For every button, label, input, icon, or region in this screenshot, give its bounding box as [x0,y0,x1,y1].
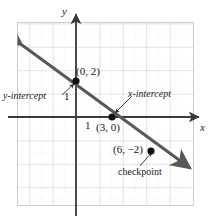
grid-lines [18,23,194,206]
point-checkpoint [147,147,154,154]
y-intercept-annotation: y-intercept [3,91,46,101]
point-label-6-minus2: (6, −2) [113,144,143,155]
point-label-0-2: (0, 2) [76,66,100,77]
y-unit-tick-label: 1 [64,91,70,102]
graph-canvas [0,0,211,224]
y-axis-label: y [62,6,67,17]
line-graph-figure: y x 1 1 (0, 2) (3, 0) (6, −2) y-intercep… [0,0,211,224]
point-label-3-0: (3, 0) [96,122,120,133]
x-intercept-annotation: x-intercept [128,89,171,99]
checkpoint-annotation: checkpoint [118,167,162,177]
x-unit-tick-label: 1 [85,120,91,131]
x-axis-label: x [200,122,205,133]
point-x-intercept [108,113,115,120]
point-y-intercept [72,77,79,84]
